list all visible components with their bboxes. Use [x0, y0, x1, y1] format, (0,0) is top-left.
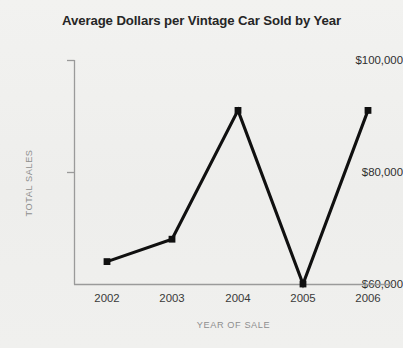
data-point-2002: [104, 258, 111, 265]
data-point-2006: [365, 107, 372, 114]
data-point-2003: [169, 236, 176, 243]
data-point-2005: [300, 281, 307, 288]
data-point-markers: [104, 107, 372, 287]
plot-area: [0, 0, 403, 348]
chart-container: Average Dollars per Vintage Car Sold by …: [0, 0, 403, 348]
data-point-2004: [235, 107, 242, 114]
data-series-line: [107, 110, 368, 284]
